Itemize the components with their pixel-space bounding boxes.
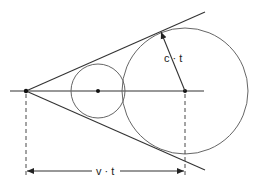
- apex-point: [24, 89, 28, 93]
- distance-label: v · t: [96, 165, 114, 177]
- radius-label: c · t: [164, 52, 182, 64]
- mach-cone-diagram: c · t v · t: [0, 0, 263, 184]
- small-center-point: [96, 89, 100, 93]
- lower-cone-line: [26, 91, 205, 170]
